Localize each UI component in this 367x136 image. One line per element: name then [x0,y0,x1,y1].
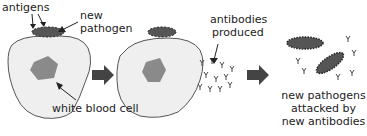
label-attacked-2: attacked by [280,103,367,115]
antibodies-arrow [214,44,218,60]
label-attacked-1: new pathogens [280,90,367,102]
label-antibodies: antibodies [210,14,267,26]
label-produced: produced [212,27,264,39]
process-arrow-1 [92,65,114,85]
process-arrow-2 [247,65,269,85]
label-white-blood-cell: white blood cell [52,103,139,115]
label-attacked-3: new antibodies [280,116,367,128]
pathogen-2 [148,27,176,37]
label-new: new [80,10,103,22]
label-antigens: antigens [2,2,50,14]
pathogen-arrow [62,22,78,30]
pathogens-attacked [287,36,356,80]
label-pathogen: pathogen [80,23,132,35]
immune-response-diagram: antigens new pathogen white blood cell a… [0,0,367,136]
